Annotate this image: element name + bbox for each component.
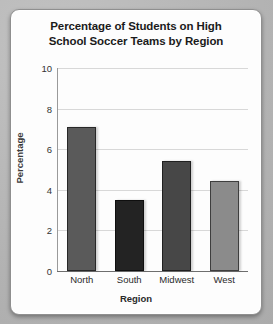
bar-west [210,181,239,271]
y-axis-tick-label: 10 [41,63,52,74]
bar-south [115,200,144,271]
chart-title: Percentage of Students on High School So… [11,19,261,49]
bar-series [58,68,248,271]
chart-card: Percentage of Students on High School So… [10,9,262,315]
x-axis-tick-label: West [194,274,254,285]
x-axis-title: Region [11,293,261,304]
x-axis-line [57,271,248,272]
chart-title-line-1: Percentage of Students on High [11,19,261,34]
bar-north [67,127,96,271]
plot-area: 0246810 NorthSouthMidwestWest [58,68,248,271]
y-axis-tick-label: 6 [47,144,52,155]
y-axis-title: Percentage [14,132,25,183]
y-axis-tick-label: 8 [47,103,52,114]
bar-midwest [162,161,191,271]
chart-title-line-2: School Soccer Teams by Region [11,34,261,49]
y-axis-tick-label: 4 [47,184,52,195]
y-axis-tick-label: 2 [47,225,52,236]
